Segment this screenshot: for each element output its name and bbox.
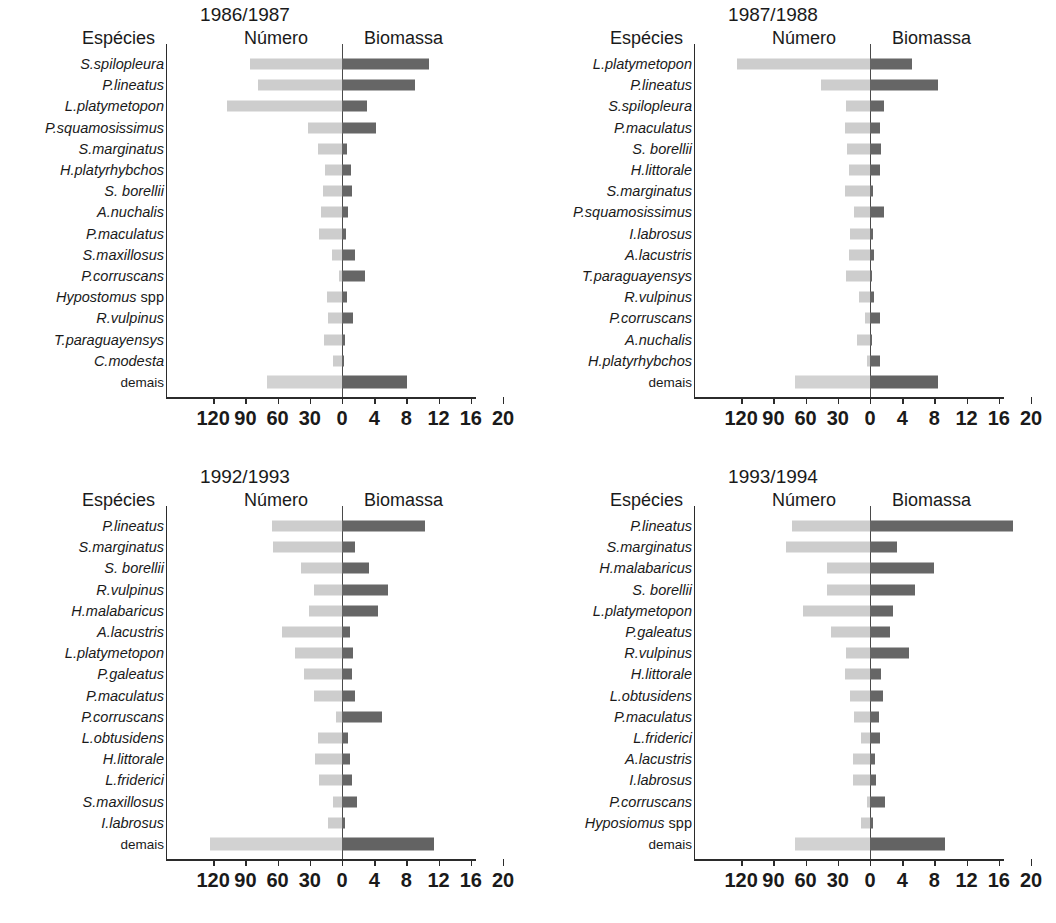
axis-tick-label: 120: [197, 407, 230, 430]
axis-tick: [741, 859, 742, 866]
bar-numero: [273, 542, 342, 553]
bar-biomassa: [870, 563, 934, 574]
bar-biomassa: [342, 143, 347, 154]
category-label: C.modesta: [94, 353, 164, 369]
bar-numero: [333, 355, 342, 366]
bar-biomassa: [870, 101, 884, 112]
category-axis-line: [166, 44, 167, 397]
axis-tick-label: 120: [197, 869, 230, 892]
category-label: H.littorale: [631, 162, 692, 178]
bar-biomassa: [870, 249, 874, 260]
axis-tick: [471, 859, 472, 866]
category-label: Hypostomus spp: [56, 289, 164, 305]
category-label: H.littorale: [631, 666, 692, 682]
bar-numero: [323, 186, 342, 197]
axis-tick: [439, 859, 440, 866]
bar-numero: [849, 165, 870, 176]
axis-tick: [934, 859, 935, 866]
chart-title: 1992/1993: [200, 466, 290, 488]
bar-biomassa: [870, 584, 915, 595]
header-especies: Espécies: [610, 490, 683, 511]
bar-biomassa: [342, 627, 350, 638]
category-label: P.corruscans: [81, 709, 164, 725]
bar-biomassa: [342, 521, 425, 532]
bar-numero: [857, 334, 870, 345]
axis-tick-label: 120: [725, 869, 758, 892]
bar-numero: [258, 80, 342, 91]
category-label: S.maxillosus: [83, 247, 164, 263]
plot-area: 120906030048121620: [166, 44, 476, 404]
category-label: A.nuchalis: [625, 332, 692, 348]
bar-biomassa: [870, 669, 881, 680]
axis-tick: [503, 859, 504, 866]
bar-numero: [845, 669, 870, 680]
category-label-demais: demais: [648, 837, 692, 852]
axis-tick-label: 8: [401, 407, 412, 430]
bar-numero: [333, 796, 342, 807]
axis-tick-label: 4: [369, 869, 380, 892]
bar-biomassa: [342, 165, 351, 176]
category-label: S.spilopleura: [608, 98, 692, 114]
plot-area: 120906030048121620: [694, 44, 1004, 404]
category-label: P.galeatus: [625, 624, 692, 640]
axis-tick-label: 90: [762, 407, 784, 430]
bar-numero: [827, 563, 870, 574]
bar-numero: [328, 313, 342, 324]
category-label: R.vulpinus: [96, 310, 164, 326]
bar-biomassa: [870, 711, 879, 722]
axis-tick: [902, 397, 903, 404]
bar-numero: [827, 584, 870, 595]
category-label: H.littorale: [103, 751, 164, 767]
bar-biomassa: [342, 542, 355, 553]
axis-tick-label: 16: [460, 869, 482, 892]
axis-tick-label: 120: [725, 407, 758, 430]
category-label: S. borellii: [104, 183, 164, 199]
bar-biomassa: [342, 817, 345, 828]
bar-biomassa: [342, 101, 367, 112]
header-especies: Espécies: [82, 28, 155, 49]
category-axis-line: [694, 506, 695, 859]
axis-tick: [471, 397, 472, 404]
bar-numero: [850, 690, 870, 701]
axis-tick: [967, 397, 968, 404]
category-label: H.platyrhybchos: [60, 162, 164, 178]
axis-tick: [310, 397, 311, 404]
category-label: L.platymetopon: [65, 645, 164, 661]
bar-biomassa: [342, 376, 407, 389]
axis-tick-label: 90: [234, 407, 256, 430]
bar-biomassa: [870, 521, 1013, 532]
bar-numero: [854, 711, 870, 722]
bar-biomassa: [870, 271, 872, 282]
bar-biomassa: [870, 313, 880, 324]
bar-numero: [737, 59, 870, 70]
bar-biomassa: [342, 563, 369, 574]
axis-tick: [342, 397, 343, 404]
bar-biomassa: [342, 355, 344, 366]
axis-tick: [278, 859, 279, 866]
bar-biomassa: [342, 796, 357, 807]
axis-tick: [213, 859, 214, 866]
bar-biomassa: [870, 59, 912, 70]
bar-numero: [845, 122, 870, 133]
axis-tick: [245, 397, 246, 404]
category-label: P.lineatus: [102, 518, 164, 534]
bar-numero: [314, 584, 342, 595]
category-label-demais: demais: [120, 375, 164, 390]
bar-biomassa: [870, 733, 880, 744]
category-label: H.malabaricus: [599, 560, 692, 576]
axis-tick: [870, 859, 871, 866]
axis-tick-label: 30: [827, 407, 849, 430]
bar-biomassa: [342, 249, 355, 260]
axis-tick: [278, 397, 279, 404]
axis-tick-label: 90: [762, 869, 784, 892]
chart-title: 1993/1994: [728, 466, 818, 488]
axis-tick-label: 8: [929, 869, 940, 892]
axis-tick: [374, 397, 375, 404]
category-label: P.maculatus: [86, 688, 164, 704]
axis-tick-label: 12: [955, 869, 977, 892]
bar-numero: [272, 521, 342, 532]
bar-numero: [327, 292, 342, 303]
bar-numero: [227, 101, 342, 112]
axis-tick-label: 0: [864, 407, 875, 430]
chart-title: 1986/1987: [200, 4, 290, 26]
